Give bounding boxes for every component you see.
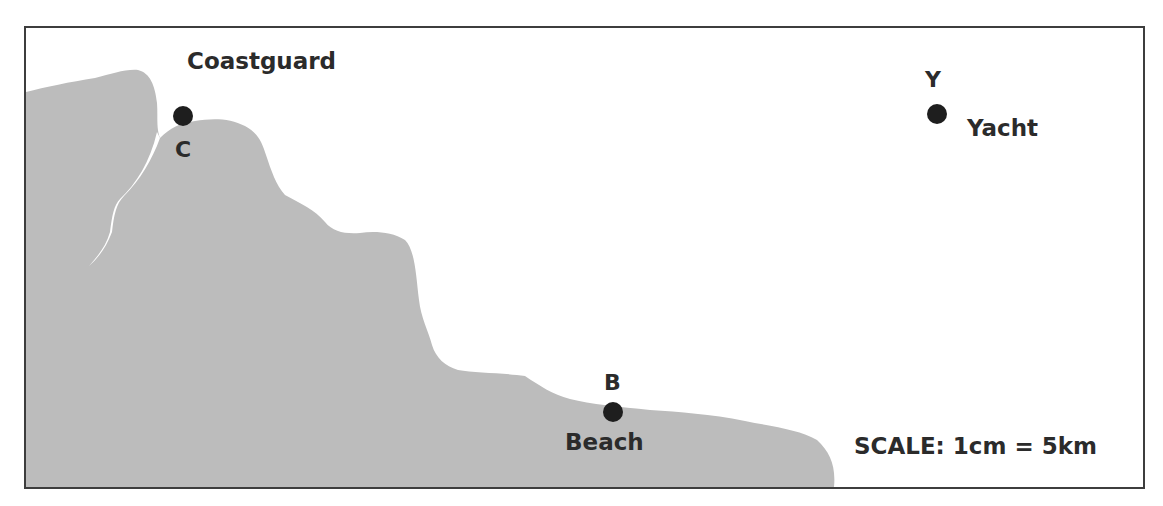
coastguard-point-letter: C: [175, 139, 191, 161]
yacht-label: Yacht: [967, 117, 1038, 140]
yacht-point-letter: Y: [925, 69, 941, 91]
beach-point-letter: B: [604, 372, 621, 394]
beach-label: Beach: [565, 431, 644, 454]
yacht-point-marker[interactable]: [927, 104, 947, 124]
land-mass: [26, 70, 834, 487]
coastguard-point-marker[interactable]: [173, 106, 193, 126]
scale-label: SCALE: 1cm = 5km: [854, 435, 1097, 458]
beach-point-marker[interactable]: [603, 402, 623, 422]
coastguard-label: Coastguard: [187, 50, 336, 73]
